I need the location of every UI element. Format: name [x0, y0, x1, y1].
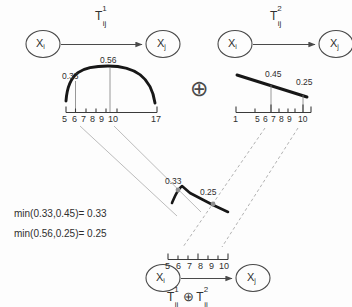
left-axis-tick-5: 5 [62, 115, 67, 124]
computation-line-1: min(0.33,0.45)= 0.33 [14, 209, 107, 219]
left-axis-ticks [66, 107, 157, 113]
left-axis-tick-6: 6 [72, 115, 77, 124]
result-axis-ticks [168, 254, 228, 260]
result-axis-tick-9: 9 [209, 262, 214, 271]
right-axis-tick-6: 6 [263, 115, 268, 124]
right-axis-tick-10: 10 [298, 115, 307, 124]
result-axis-tick-8: 8 [198, 262, 203, 271]
left-transition-sup: 1 [102, 4, 106, 13]
result-target-node-label: Xj [247, 272, 256, 283]
left-axis-tick-8: 8 [90, 115, 95, 124]
result-transition-left-sub: ij [175, 300, 179, 307]
result-transition-right-sup: 2 [204, 285, 208, 294]
left-value-label-033: 0.33 [62, 72, 79, 81]
result-point-033-marker [176, 188, 181, 193]
connector-left-056 [114, 126, 201, 212]
left-transition-label: T1ij [95, 9, 110, 25]
result-oplus-icon: ⊕ [183, 289, 194, 304]
result-point-025-marker [211, 202, 216, 207]
left-axis-tick-7: 7 [81, 115, 86, 124]
left-axis-tick-17: 17 [151, 115, 161, 124]
oplus-icon: ⊕ [190, 78, 208, 100]
result-transition-left-sup: 1 [174, 285, 178, 294]
left-projection-connectors [80, 126, 201, 216]
computation-line-2: min(0.56,0.25)= 0.25 [14, 229, 107, 239]
left-axis-tick-9: 9 [99, 115, 104, 124]
figure-root: T1ij Xi Xj T2ij Xi Xj 0.33 0.56 5 6 7 8 … [0, 0, 352, 307]
result-axis-tick-5: 5 [165, 262, 170, 271]
connector-right-025 [222, 128, 298, 247]
result-transition-label: T1ij⊕T2ij [167, 290, 212, 306]
right-target-node-label: Xj [330, 38, 339, 49]
result-transition-right-base: T [196, 290, 203, 304]
right-value-label-025: 0.25 [296, 78, 313, 87]
right-transition-sub: ij [278, 19, 282, 28]
right-axis-tick-5: 5 [255, 115, 260, 124]
left-chart [66, 66, 157, 113]
result-axis-tick-10: 10 [219, 262, 229, 271]
connector-left-033 [80, 126, 177, 216]
right-source-node-label: Xi [228, 38, 237, 49]
left-source-node-label: Xi [36, 38, 45, 49]
result-source-node-label: Xi [156, 272, 165, 283]
right-axis-tick-8: 8 [279, 115, 284, 124]
right-axis-tick-1: 1 [233, 115, 238, 124]
right-value-label-045: 0.45 [265, 70, 282, 79]
right-axis-ticks [236, 105, 311, 113]
result-value-label-033: 0.33 [165, 177, 182, 186]
left-value-label-056: 0.56 [100, 56, 117, 65]
left-transition-sub: ij [103, 19, 107, 28]
left-membership-curve [66, 66, 155, 103]
result-axis-tick-6: 6 [176, 262, 181, 271]
right-transition-sup: 2 [277, 4, 281, 13]
result-chart [168, 186, 228, 260]
result-axis-tick-7: 7 [187, 262, 192, 271]
right-axis-tick-7: 7 [271, 115, 276, 124]
left-axis-tick-10: 10 [108, 115, 118, 124]
result-value-label-025: 0.25 [200, 188, 217, 197]
result-transition-right-sub: ij [204, 300, 208, 307]
right-axis-tick-9: 9 [287, 115, 292, 124]
right-transition-label: T2ij [270, 9, 285, 25]
connector-right-045 [183, 128, 265, 247]
left-target-node-label: Xj [157, 38, 166, 49]
